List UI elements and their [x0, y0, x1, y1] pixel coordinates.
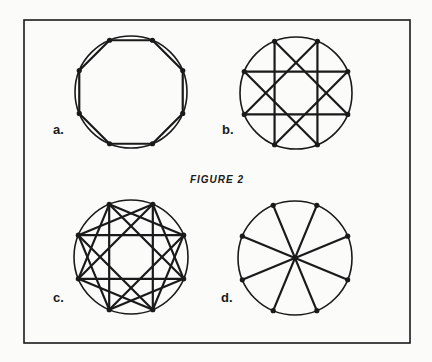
- panel-a-octagon: [75, 36, 187, 148]
- vertex-dot: [272, 142, 277, 147]
- panel-d-diameters: [238, 201, 352, 315]
- vertex-dot: [150, 202, 155, 207]
- chord: [244, 72, 317, 145]
- chord: [109, 279, 183, 310]
- vertex-dot: [107, 141, 112, 146]
- chord: [109, 204, 183, 278]
- chord: [78, 204, 109, 278]
- vertex-dot: [77, 68, 82, 73]
- vertex-dot: [240, 277, 245, 282]
- panel-a-label: a.: [53, 122, 64, 137]
- chord: [244, 41, 317, 114]
- circle: [75, 36, 187, 148]
- vertex-dot: [314, 203, 319, 208]
- panel-c-star-grid: [74, 200, 188, 314]
- center-dot: [292, 255, 297, 260]
- vertex-dot: [180, 111, 185, 116]
- vertex-dot: [314, 308, 319, 313]
- chord: [275, 72, 348, 145]
- vertex-dot: [150, 38, 155, 43]
- vertex-dot: [345, 277, 350, 282]
- vertex-dot: [345, 69, 350, 74]
- vertex-dot: [181, 233, 186, 238]
- vertex-dot: [150, 307, 155, 312]
- vertex-dot: [315, 39, 320, 44]
- chord: [152, 113, 182, 143]
- chord: [153, 235, 184, 309]
- chord: [78, 204, 152, 235]
- vertex-dot: [181, 276, 186, 281]
- chord: [109, 204, 183, 235]
- circle: [74, 200, 188, 314]
- vertex-dot: [271, 308, 276, 313]
- vertex-dot: [242, 112, 247, 117]
- chord: [78, 279, 152, 310]
- vertex-dot: [345, 234, 350, 239]
- chord: [79, 113, 109, 143]
- vertex-dot: [107, 202, 112, 207]
- vertex-dot: [76, 276, 81, 281]
- circle: [240, 37, 352, 149]
- figure-title: FIGURE 2: [190, 174, 244, 185]
- vertex-dot: [315, 142, 320, 147]
- chord: [153, 204, 184, 278]
- panel-b-label: b.: [222, 122, 234, 137]
- figure-2-diagram: a. b. c. d. FIGURE 2: [0, 0, 432, 362]
- chord: [79, 40, 109, 70]
- vertex-dot: [272, 39, 277, 44]
- vertex-dot: [345, 112, 350, 117]
- vertex-dot: [107, 307, 112, 312]
- vertex-dot: [180, 68, 185, 73]
- vertex-dot: [107, 38, 112, 43]
- panel-b-star: [240, 37, 352, 149]
- vertex-dot: [150, 141, 155, 146]
- chord: [78, 235, 109, 309]
- chord: [78, 204, 152, 278]
- panel-d-label: d.: [221, 290, 233, 305]
- vertex-dot: [242, 69, 247, 74]
- vertex-dot: [271, 203, 276, 208]
- vertex-dot: [240, 234, 245, 239]
- chord: [109, 235, 183, 309]
- chord: [275, 41, 348, 114]
- vertex-dot: [76, 233, 81, 238]
- panel-c-label: c.: [53, 290, 64, 305]
- vertex-dot: [77, 111, 82, 116]
- chord: [152, 40, 182, 70]
- chord: [78, 235, 152, 309]
